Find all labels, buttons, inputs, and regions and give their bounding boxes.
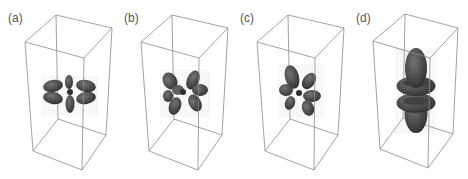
orbital-lobes bbox=[278, 64, 324, 118]
panel-d: (d) bbox=[348, 0, 464, 179]
orbital-lobes bbox=[159, 68, 210, 118]
panel-label: (a) bbox=[8, 11, 23, 25]
panel-label: (b) bbox=[124, 11, 139, 25]
panel-c: (c) bbox=[232, 0, 348, 179]
panel-a: (a) bbox=[0, 0, 116, 179]
orbital-diagram-c bbox=[232, 0, 348, 179]
panel-label: (c) bbox=[240, 11, 254, 25]
orbital-diagram-a bbox=[0, 0, 116, 179]
panel-label: (d) bbox=[356, 11, 371, 25]
panel-b: (b) bbox=[116, 0, 232, 179]
orbital-diagram-d bbox=[348, 0, 464, 179]
orbital-diagram-b bbox=[116, 0, 232, 179]
orbital-lobes bbox=[42, 75, 98, 116]
